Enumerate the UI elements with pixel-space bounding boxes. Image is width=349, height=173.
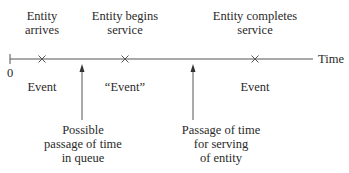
origin-label: 0 [7,66,13,80]
event-bottom-label: Event [27,80,56,94]
up-arrow-icon [80,64,85,120]
event-bottom-label: “Event” [105,80,145,94]
event-top-label: Entity arrives [25,9,59,37]
queue-time-annotation: Possible passage of time in queue [44,123,122,165]
service-time-annotation: Passage of time for serving of entity [182,123,260,165]
event-bottom-label: Event [240,80,269,94]
event-timeline-diagram: 0 Time Entity arrives Event Entity begin… [0,0,349,173]
up-arrow-icon [191,64,196,120]
time-axis-label: Time [318,52,344,66]
event-top-label: Entity completes service [213,9,297,37]
event-top-label: Entity begins service [92,9,158,37]
